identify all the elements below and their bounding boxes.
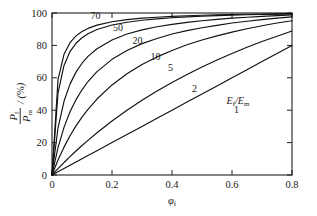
figure-container: 00.20.40.60.8 020406080100 70502010521 E… <box>0 0 317 216</box>
curve-labels: 70502010521 <box>91 10 240 115</box>
curve-label-50: 50 <box>113 22 123 33</box>
y-tick-label: 80 <box>37 40 48 51</box>
y-axis-tick-labels: 020406080100 <box>31 8 47 181</box>
y-title-denominator: Pm <box>21 110 34 123</box>
curve-20 <box>52 15 292 175</box>
curve-2 <box>52 31 292 175</box>
curve-label-70: 70 <box>91 10 101 21</box>
y-axis-title: PfPm / (%) <box>8 82 34 124</box>
y-tick-label: 0 <box>42 170 47 181</box>
x-tick-label: 0.4 <box>165 179 179 190</box>
curve-label-2: 2 <box>192 83 197 94</box>
curve-label-20: 20 <box>133 35 143 46</box>
y-tick-label: 100 <box>31 8 47 19</box>
x-axis-title: φf <box>168 195 177 208</box>
x-axis-title-text: φf <box>168 195 177 208</box>
curve-70 <box>52 14 292 175</box>
curve-label-10: 10 <box>151 51 161 62</box>
curve-50 <box>52 14 292 175</box>
y-tick-label: 60 <box>37 72 48 83</box>
curve-10 <box>52 17 292 175</box>
x-tick-label: 0.2 <box>105 179 118 190</box>
x-tick-label: 0 <box>49 179 54 190</box>
y-title-unit: / (%) <box>15 82 27 105</box>
y-tick-label: 20 <box>37 137 48 148</box>
x-tick-label: 0.6 <box>225 179 238 190</box>
x-tick-label: 0.8 <box>285 179 298 190</box>
x-axis-ticks <box>52 13 292 175</box>
y-title-numerator: Pf <box>8 111 21 121</box>
curve-label-5: 5 <box>168 62 173 73</box>
y-axis-ticks <box>52 13 292 175</box>
plot-frame <box>52 13 292 175</box>
x-axis-tick-labels: 00.20.40.60.8 <box>49 179 298 190</box>
y-axis-title-group: PfPm / (%) <box>8 82 34 124</box>
data-curves <box>52 14 292 175</box>
line-chart: 00.20.40.60.8 020406080100 70502010521 E… <box>0 0 317 216</box>
y-tick-label: 40 <box>37 105 48 116</box>
